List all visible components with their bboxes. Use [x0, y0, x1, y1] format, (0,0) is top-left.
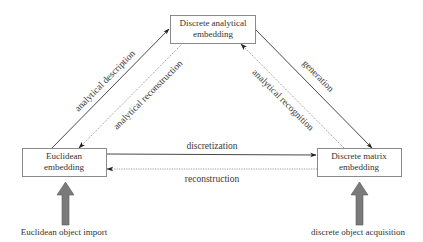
input-arrow-discrete	[351, 182, 368, 225]
label-analytical-recognition: analytical recognition	[250, 67, 316, 133]
up-arrow-icon	[351, 182, 368, 225]
node-discrete-matrix-embedding: Discrete matrix embedding	[318, 149, 402, 177]
node-left-line1: Euclidean	[46, 151, 82, 161]
label-reconstruction: reconstruction	[185, 174, 240, 184]
label-generation: generation	[301, 58, 336, 94]
label-analytical-description: analytical description	[73, 48, 137, 113]
node-top-line1: Discrete analytical	[179, 18, 247, 28]
label-discretization: discretization	[186, 141, 237, 151]
node-top-line2: embedding	[193, 29, 233, 39]
node-discrete-analytical-embedding: Discrete analytical embedding	[171, 16, 256, 44]
label-euclidean-object-import: Euclidean object import	[21, 227, 108, 237]
node-right-line1: Discrete matrix	[331, 151, 387, 161]
diagram-canvas: analytical description analytical recons…	[0, 0, 423, 242]
label-discrete-object-acquisition: discrete object acquisition	[311, 227, 405, 237]
node-euclidean-embedding: Euclidean embedding	[23, 149, 107, 177]
up-arrow-icon	[57, 182, 74, 225]
input-arrow-euclidean	[57, 182, 74, 225]
edge-discretization	[106, 154, 316, 155]
edge-analytical-recognition	[241, 44, 344, 148]
node-left-line2: embedding	[44, 162, 84, 172]
node-right-line2: embedding	[339, 162, 379, 172]
